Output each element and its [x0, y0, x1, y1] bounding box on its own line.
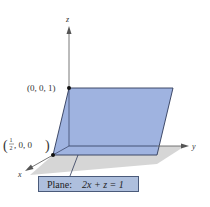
- fraction-denominator: 2: [10, 145, 13, 151]
- y-axis-arrow-icon: [181, 144, 189, 149]
- plane-caption: Plane: 2x + z = 1: [38, 176, 139, 192]
- plane-surface: [53, 88, 173, 155]
- paren-left: (: [3, 138, 8, 154]
- x-axis-arrow-icon: [25, 165, 34, 172]
- point-half-0-0: [51, 153, 55, 157]
- z-axis-label: z: [65, 15, 70, 24]
- x-axis-label: x: [17, 170, 22, 179]
- fraction-numerator: 1: [10, 137, 13, 143]
- y-axis-label: y: [191, 142, 196, 151]
- point-0-0-1: [67, 86, 71, 90]
- plane-equation: 2x + z = 1: [82, 179, 124, 190]
- plane-caption-prefix: Plane:: [47, 179, 72, 190]
- paren-right: ): [45, 138, 50, 154]
- point-label-0-0-1: (0, 0, 1): [27, 83, 56, 93]
- point-label-half-0-0: ( 1 2 , 0, 0 ): [3, 137, 50, 154]
- z-axis-arrow-icon: [67, 26, 72, 34]
- point-label-rest: , 0, 0: [14, 140, 33, 150]
